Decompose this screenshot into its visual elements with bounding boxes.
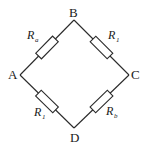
node-label-d: D [70,130,79,145]
svg-text:1: 1 [42,113,46,121]
label-r-bc: R 1 [107,28,120,44]
svg-text:R: R [26,28,35,42]
svg-text:1: 1 [116,36,120,44]
label-r-ad: R 1 [33,105,46,121]
svg-text:R: R [33,105,42,119]
node-label-b: B [69,5,78,20]
svg-text:a: a [35,36,39,44]
resistor-ab [36,36,59,59]
node-label-c: C [131,67,140,82]
label-r-dc: R b [105,104,118,120]
svg-text:b: b [114,112,118,120]
node-label-a: A [8,67,18,82]
svg-text:R: R [105,104,114,118]
bridge-circuit-diagram: B A C D R a R 1 R 1 R b [0,0,149,153]
svg-text:R: R [107,28,116,42]
label-r-ab: R a [26,28,39,44]
